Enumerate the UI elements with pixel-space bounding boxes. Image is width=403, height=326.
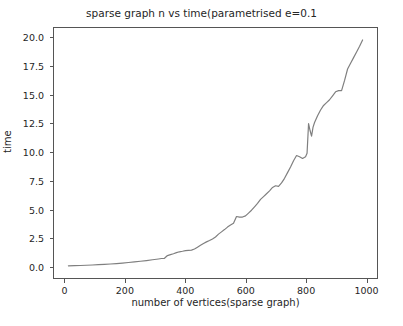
y-tick-label: 17.5 — [0, 61, 44, 72]
y-tick-label: 5.0 — [0, 204, 44, 215]
x-tick-mark — [306, 279, 307, 283]
x-axis-label: number of vertices(sparse graph) — [53, 297, 378, 308]
x-tick-mark — [125, 279, 126, 283]
y-tick-label: 2.5 — [0, 233, 44, 244]
y-tick-label: 0.0 — [0, 261, 44, 272]
chart-title: sparse graph n vs time(parametrised e=0.… — [0, 7, 403, 19]
x-tick-label: 600 — [237, 285, 255, 296]
x-tick-mark — [64, 279, 65, 283]
y-tick-label: 12.5 — [0, 118, 44, 129]
y-tick-label: 20.0 — [0, 32, 44, 43]
x-tick-mark — [246, 279, 247, 283]
plot-area — [53, 27, 378, 279]
chart-figure: sparse graph n vs time(parametrised e=0.… — [0, 0, 403, 326]
x-tick-label: 200 — [116, 285, 134, 296]
y-tick-label: 7.5 — [0, 175, 44, 186]
series-time-line — [68, 40, 362, 266]
y-tick-label: 10.0 — [0, 147, 44, 158]
x-tick-label: 1000 — [354, 285, 378, 296]
x-tick-mark — [367, 279, 368, 283]
x-tick-label: 400 — [176, 285, 194, 296]
x-tick-label: 800 — [297, 285, 315, 296]
x-tick-label: 0 — [61, 285, 67, 296]
y-tick-label: 15.0 — [0, 89, 44, 100]
data-line-svg — [54, 28, 377, 278]
x-tick-mark — [185, 279, 186, 283]
y-axis-ticks: 0.02.55.07.510.012.515.017.520.0 — [0, 27, 53, 279]
